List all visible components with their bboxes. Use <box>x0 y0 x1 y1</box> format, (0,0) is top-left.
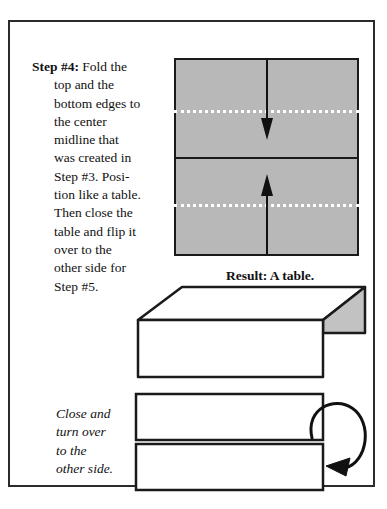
step-text-line-1: top and the <box>32 76 164 94</box>
step-text-line-0: Step #4: Fold the <box>32 58 164 76</box>
instruction-frame: Step #4: Fold the top and the bottom edg… <box>8 20 375 487</box>
step-text-line-6: Step #3. Posi- <box>32 168 164 186</box>
step-label: Step #4: <box>32 59 79 74</box>
step-text-line-8: Then close the <box>32 204 164 222</box>
down-arrow-icon <box>261 118 273 140</box>
step-instruction-text: Step #4: Fold the top and the bottom edg… <box>32 58 164 296</box>
step-text-line-5: was created in <box>32 149 164 167</box>
flip-arrowhead-icon <box>326 458 350 476</box>
step-text-fragment-0: Fold the <box>82 59 127 74</box>
closed-table-upper-half <box>136 394 323 440</box>
step-text-line-2: bottom edges to <box>32 95 164 113</box>
step-text-line-4: midline that <box>32 131 164 149</box>
step-text-line-7: tion like a table. <box>32 186 164 204</box>
down-arrow-shaft <box>266 60 268 120</box>
center-midline <box>174 157 359 159</box>
table-front-face <box>138 320 323 377</box>
up-arrow-shaft <box>266 194 268 254</box>
folded-paper-diagram <box>174 58 359 256</box>
table-shape-diagram <box>130 277 370 387</box>
step-text-line-10: over to the <box>32 241 164 259</box>
step-text-line-9: table and flip it <box>32 223 164 241</box>
step-text-line-11: other side for <box>32 259 164 277</box>
step-text-line-3: the center <box>32 113 164 131</box>
up-arrow-icon <box>261 174 273 196</box>
closed-table-lower-half <box>136 444 323 490</box>
closed-table-flip-diagram <box>130 390 375 500</box>
page-canvas: Step #4: Fold the top and the bottom edg… <box>0 0 387 509</box>
